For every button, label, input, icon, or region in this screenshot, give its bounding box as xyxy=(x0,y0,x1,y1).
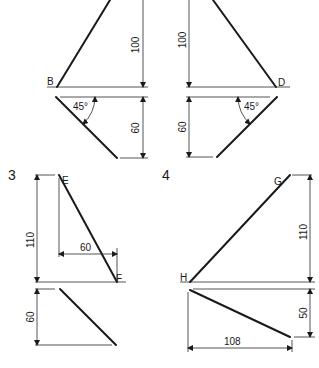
line-gh xyxy=(190,175,290,282)
line-front-view xyxy=(60,289,116,345)
dimension-depth-label: 60 xyxy=(25,311,36,323)
angle-label: 45° xyxy=(244,101,259,112)
point-label-h: H xyxy=(180,272,187,283)
point-label-e: E xyxy=(62,175,69,186)
line-top-view xyxy=(213,0,276,87)
dimension-depth-label: 60 xyxy=(130,122,141,134)
figure-number: 3 xyxy=(8,167,16,183)
figure-4: 4 G H 110 50 108 xyxy=(162,167,315,352)
figure-number: 4 xyxy=(162,167,170,183)
dimension-height-label: 100 xyxy=(177,31,188,48)
point-label-b: B xyxy=(47,76,54,87)
point-label-g: G xyxy=(274,176,282,187)
line-top-view xyxy=(57,0,110,87)
dimension-depth-label: 50 xyxy=(298,307,309,319)
dimension-depth-label: 60 xyxy=(177,121,188,133)
dimension-height-label: 110 xyxy=(25,232,36,248)
dimension-height-label: 100 xyxy=(130,36,141,53)
line-front-view xyxy=(190,290,290,337)
figure-1: 100 B 45° 60 xyxy=(47,0,148,158)
figure-3: 3 E F 110 60 60 xyxy=(8,167,126,345)
point-label-d: D xyxy=(278,77,285,88)
angle-label: 45° xyxy=(73,101,88,112)
line-ef xyxy=(59,175,117,282)
dimension-horizontal-label: 108 xyxy=(224,336,241,347)
dimension-horizontal-label: 60 xyxy=(80,242,92,253)
dimension-height-label: 110 xyxy=(298,224,309,240)
figure-2: 100 D 45° 60 xyxy=(177,0,290,157)
technical-drawing: 100 B 45° 60 100 D 45° 60 3 E F 110 xyxy=(0,0,319,368)
